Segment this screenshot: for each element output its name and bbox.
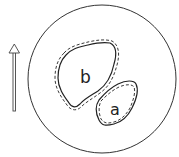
diagram-canvas: b a <box>0 0 179 157</box>
label-b: b <box>80 67 91 87</box>
up-arrow-icon <box>9 44 20 111</box>
outer-circle <box>28 5 176 153</box>
label-a: a <box>110 100 120 119</box>
